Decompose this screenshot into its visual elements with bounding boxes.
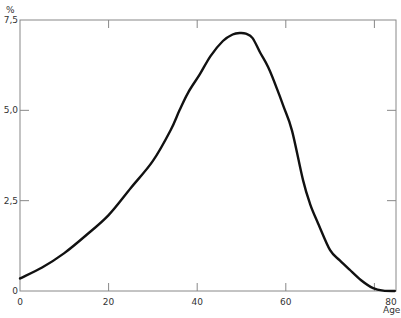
y-axis-unit-label: % xyxy=(6,5,15,15)
x-tick-label: 60 xyxy=(280,297,292,307)
x-tick-label: 20 xyxy=(103,297,115,307)
y-axis-tick-labels: 02,55,07,5 xyxy=(4,15,19,296)
data-curve xyxy=(20,33,395,291)
y-tick-label: 5,0 xyxy=(4,105,19,115)
x-axis-tick-labels: 020406080 xyxy=(17,297,397,307)
x-tick-label: 0 xyxy=(17,297,23,307)
y-tick-label: 0 xyxy=(12,286,18,296)
y-tick-label: 7,5 xyxy=(4,15,18,25)
x-axis-title: Age xyxy=(383,305,401,315)
y-tick-label: 2,5 xyxy=(4,196,18,206)
x-tick-label: 40 xyxy=(191,297,203,307)
line-chart: 02,55,07,5 020406080 % Age xyxy=(0,0,401,318)
